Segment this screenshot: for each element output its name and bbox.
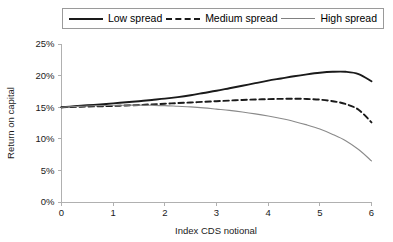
y-tick-label: 0% — [41, 196, 55, 207]
y-axis-title: Return on capital — [5, 87, 16, 159]
x-tick-label: 3 — [214, 207, 219, 218]
y-tick-label: 15% — [35, 102, 55, 113]
chart-axes — [62, 44, 372, 203]
x-tick-label: 5 — [317, 207, 322, 218]
chart-figure: Low spread Medium spread High spread 0%5… — [0, 0, 393, 242]
x-tick-label: 4 — [266, 207, 271, 218]
series-line-high-spread — [62, 105, 372, 161]
y-tick-label: 10% — [35, 133, 55, 144]
y-axis-ticks: 0%5%10%15%20%25% — [35, 38, 61, 207]
series-line-medium-spread — [62, 99, 372, 123]
x-tick-label: 1 — [111, 207, 116, 218]
y-tick-label: 5% — [41, 165, 55, 176]
x-axis-title: Index CDS notional — [175, 225, 257, 236]
y-tick-label: 20% — [35, 70, 55, 81]
x-axis-ticks: 0123456 — [59, 202, 374, 218]
y-tick-label: 25% — [35, 38, 55, 49]
x-tick-label: 6 — [369, 207, 374, 218]
chart-plot-area: 0%5%10%15%20%25% 0123456 Index CDS notio… — [0, 0, 393, 242]
x-tick-label: 2 — [162, 207, 167, 218]
chart-series-group — [62, 72, 372, 161]
x-tick-label: 0 — [59, 207, 64, 218]
